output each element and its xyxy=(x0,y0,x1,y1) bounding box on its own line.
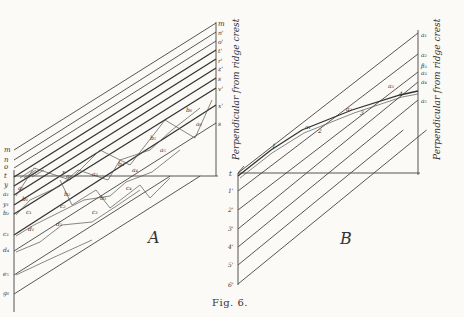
panel-b-axis-label: Perpendicular from ridge crest xyxy=(432,18,442,161)
b-point-label: a₃ xyxy=(388,82,395,89)
strata-line xyxy=(14,50,216,177)
a-point-label: b₄ xyxy=(118,160,125,167)
panel-a: m n o t y a₁ y₁ b₂ c₃ d₄ e₅ g₆ m n' o' t… xyxy=(2,18,241,312)
a-left-label: y₁ xyxy=(2,200,9,208)
figure-caption: Fig. 6. xyxy=(212,297,248,308)
b-right-label: a₃ xyxy=(421,69,428,76)
a-right-label: s xyxy=(218,120,221,127)
a-right-label: s xyxy=(218,75,221,82)
a-right-label: z' xyxy=(217,65,223,72)
b-point-label: a₁ xyxy=(305,123,311,130)
a-right-label: t' xyxy=(218,47,222,54)
strata-line xyxy=(238,72,418,210)
b-point-label: a₂ xyxy=(346,105,353,112)
a-point-label: c₄ xyxy=(126,184,132,191)
b-point-label: 1 xyxy=(272,142,276,149)
figure-6-diagram: m n o t y a₁ y₁ b₂ c₃ d₄ e₅ g₆ m n' o' t… xyxy=(0,0,464,317)
a-point-label: a₄ xyxy=(132,166,139,173)
profile-line xyxy=(16,240,92,275)
a-point-label: c₂ xyxy=(60,202,66,209)
a-point-label: b₆ xyxy=(186,106,193,113)
panel-b-strata-lines xyxy=(238,33,427,284)
b-left-label: 4' xyxy=(227,243,234,250)
panel-b-profile-lower xyxy=(240,94,418,178)
b-right-label: a₅ xyxy=(421,97,428,104)
b-point-label: 4 xyxy=(398,90,403,97)
a-point-label: d₁ xyxy=(28,225,34,232)
a-left-label: b₂ xyxy=(3,209,10,216)
a-point-label: c₁ xyxy=(26,208,32,215)
b-left-label: 3' xyxy=(228,225,234,232)
a-point-label: a₂ xyxy=(66,172,73,179)
b-right-label: a₄ xyxy=(421,78,428,85)
b-left-label: 6' xyxy=(228,281,234,288)
panel-b: t 1' 2' 3' 4' 5' 6' a₁ a₂ β₃ a₃ a₄ a₅ 1 … xyxy=(227,18,442,288)
strata-line xyxy=(14,78,216,205)
strata-line xyxy=(14,59,216,186)
a-point-label: d₂ xyxy=(56,220,63,227)
strata-line xyxy=(14,105,216,235)
a-left-label: o xyxy=(4,163,8,171)
a-point-label: b₁ xyxy=(22,195,28,202)
a-right-label: o' xyxy=(218,38,224,45)
a-right-label: x' xyxy=(218,102,223,109)
a-right-label: v' xyxy=(218,85,223,92)
strata-line xyxy=(14,176,200,294)
panel-a-strata-lines xyxy=(14,23,216,294)
a-point-label: b₃ xyxy=(100,194,107,201)
a-left-label: a₁ xyxy=(3,190,9,197)
a-left-label: d₄ xyxy=(3,246,10,253)
a-point-label: a₅ xyxy=(160,146,167,153)
strata-line xyxy=(238,33,418,173)
a-left-label: t xyxy=(4,172,7,180)
panel-b-label: B xyxy=(339,229,352,248)
a-left-label: m xyxy=(4,146,11,154)
b-left-label: 5' xyxy=(228,261,234,268)
b-right-label: a₂ xyxy=(421,51,428,58)
b-point-label: 2 xyxy=(317,127,322,134)
a-left-label: c₃ xyxy=(3,230,9,237)
a-point-label: a₃ xyxy=(92,170,99,177)
a-left-label: y xyxy=(3,181,9,189)
b-left-label: 2' xyxy=(227,206,234,213)
a-left-label: g₆ xyxy=(3,289,10,297)
b-right-label: a₁ xyxy=(421,31,427,38)
panel-a-label: A xyxy=(146,228,160,247)
a-point-label: c₃ xyxy=(92,208,98,215)
a-left-label: e₅ xyxy=(3,270,10,277)
a-point-label: b₂ xyxy=(64,190,71,197)
a-right-label: r' xyxy=(218,57,223,64)
strata-line xyxy=(238,130,403,265)
b-left-label: t xyxy=(229,170,232,178)
strata-line xyxy=(14,41,216,168)
a-point-label: b₅ xyxy=(150,134,157,141)
a-point-label: a₁ xyxy=(18,184,24,191)
b-left-label: 1' xyxy=(228,187,234,194)
a-point-label: a₆ xyxy=(196,120,203,127)
b-point-label: 3 xyxy=(360,109,364,116)
panel-a-axis-label: Perpendicular from ridge crest xyxy=(231,18,241,161)
a-right-label: m xyxy=(218,20,225,28)
a-right-label: n' xyxy=(218,29,224,36)
